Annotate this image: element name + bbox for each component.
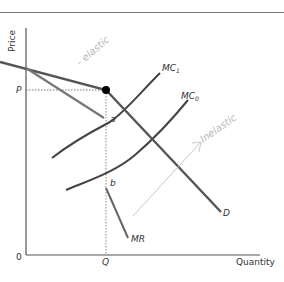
mc1-label: MC1 [162,63,180,74]
origin-label: 0 [16,252,22,262]
mc0-label: MC0 [181,91,199,102]
y-axis-label: Price [7,30,17,52]
mr-lower-segment [106,188,128,238]
demand-label: D [223,208,230,218]
p-label: P [16,85,22,95]
point-b-label: b [110,178,116,188]
mr-label: MR [131,234,145,244]
point-a-label: a [110,114,116,124]
elastic-annotation: - elastic [74,34,112,68]
mr-upper-segment [26,68,104,118]
inelastic-annotation: Inelastic [198,111,239,144]
q-label: Q [102,257,109,267]
x-axis-label: Quantity [236,257,276,267]
kink-point [102,86,110,94]
demand-curve [0,62,221,212]
kinked-demand-diagram: Price Quantity 0 P Q a b D MR MC1 MC0 - … [0,0,284,282]
